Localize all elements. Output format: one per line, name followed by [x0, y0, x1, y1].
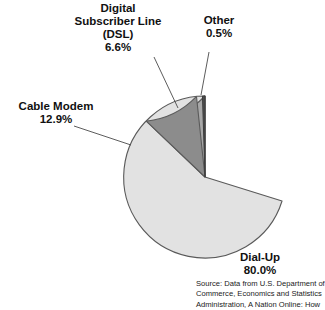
slice-label-dial-up-name: Dial-Up — [224, 251, 296, 264]
slice-value-dsl: 6.6% — [52, 41, 184, 54]
slice-label-other-name: Other — [188, 14, 250, 27]
source-note-line3: Administration, A Nation Online: How — [196, 300, 308, 310]
slice-label-other: Other 0.5% — [188, 14, 250, 40]
slice-label-dsl: Digital Subscriber Line (DSL) 6.6% — [52, 2, 184, 54]
source-note-line1: Source: Data from U.S. Department of — [196, 279, 308, 289]
slice-label-cable-modem-name: Cable Modem — [4, 100, 108, 113]
slice-label-dsl-line3: (DSL) — [52, 28, 184, 41]
slice-value-dial-up: 80.0% — [224, 264, 296, 277]
slice-label-cable-modem: Cable Modem 12.9% — [4, 100, 108, 126]
leader-line-dsl — [154, 57, 178, 108]
leader-line-other — [201, 52, 209, 95]
leader-line-cable-modem — [74, 126, 131, 145]
slice-label-dsl-line2: Subscriber Line — [52, 15, 184, 28]
slice-value-other: 0.5% — [188, 27, 250, 40]
slice-label-dsl-line1: Digital — [52, 2, 184, 15]
source-note: Source: Data from U.S. Department of Com… — [196, 279, 308, 310]
slice-value-cable-modem: 12.9% — [4, 113, 108, 126]
source-note-line2: Commerce, Economics and Statistics — [196, 289, 308, 299]
slice-label-dial-up: Dial-Up 80.0% — [224, 251, 296, 277]
